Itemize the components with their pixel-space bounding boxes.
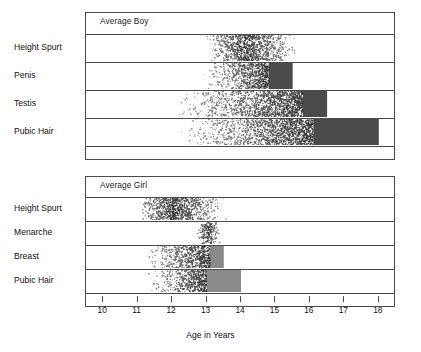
x-tick <box>206 296 207 302</box>
x-tick <box>171 296 172 302</box>
x-axis-title: Age in Years <box>0 330 421 340</box>
x-tick <box>343 296 344 302</box>
x-tick-label: 11 <box>132 305 141 315</box>
row-label-height-spurt: Height Spurt <box>14 203 134 213</box>
x-tick-label: 15 <box>270 305 279 315</box>
x-tick <box>137 296 138 302</box>
x-tick <box>102 296 103 302</box>
panel-average-girl: Average Girl <box>85 176 395 307</box>
x-tick-label: 18 <box>373 305 382 315</box>
x-tick-label: 10 <box>98 305 107 315</box>
row-label-testis: Testis <box>14 98 134 108</box>
maturation-chart: Average Boy Average Girl 101112131415161… <box>0 0 421 352</box>
row-divider <box>86 293 394 294</box>
x-tick <box>240 296 241 302</box>
x-tick-label: 13 <box>201 305 210 315</box>
panel-title-girl: Average Girl <box>100 180 147 190</box>
x-tick-label: 14 <box>235 305 244 315</box>
x-tick-label: 12 <box>166 305 175 315</box>
row-label-pubic-hair: Pubic Hair <box>14 275 134 285</box>
x-axis: 101112131415161718 <box>85 296 395 308</box>
x-tick-label: 17 <box>339 305 348 315</box>
row-label-pubic-hair: Pubic Hair <box>14 126 134 136</box>
x-tick-label: 16 <box>304 305 313 315</box>
row-label-menarche: Menarche <box>14 227 134 237</box>
row-label-breast: Breast <box>14 251 134 261</box>
row-label-penis: Penis <box>14 70 134 80</box>
panel-average-boy: Average Boy <box>85 12 395 160</box>
x-tick <box>274 296 275 302</box>
x-tick <box>378 296 379 302</box>
row-label-height-spurt: Height Spurt <box>14 42 134 52</box>
row-divider <box>86 146 394 147</box>
x-tick <box>309 296 310 302</box>
panel-title-boy: Average Boy <box>100 16 148 26</box>
